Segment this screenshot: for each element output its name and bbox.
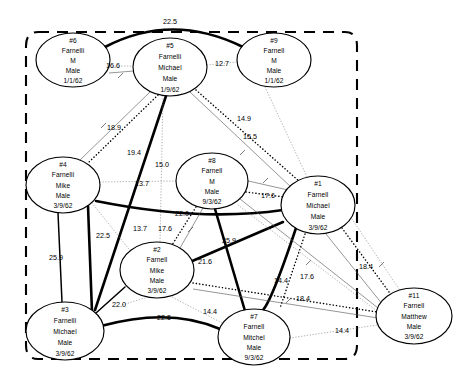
node-7-surname: Farnell [244,323,265,330]
node-3-id: #3 [61,306,69,313]
node-7-dob: 9/3/62 [245,354,264,361]
edge-label-1-11b: 18.4 [359,262,373,271]
node-5-id: #5 [166,42,174,49]
edge-label-4-8: 13.7 [135,179,149,188]
edge-4-2 [92,203,132,253]
edge-label-5-1: 15.5 [243,132,257,141]
node-11-surname: Farnell [404,302,425,309]
edge-5-2 [160,96,163,243]
node-9-surname: Farnell [264,47,285,54]
nodes-layer: #6 Farnelli M Male 1/1/62 #5 Farnelli Mi… [26,33,452,365]
edge-label-8-1: 17.6 [261,191,275,200]
node-4-dob: 3/9/62 [54,202,73,209]
edge-8-1 [244,180,288,190]
node-6[interactable]: #6 Farnelli M Male 1/1/62 [36,33,110,87]
edge-label-4-1: 22.0 [175,209,189,218]
edge-8-1-tick [263,178,268,183]
node-2-sex: Male [150,277,165,284]
node-1[interactable]: #1 Farnell Michael Male 3/9/62 [281,176,355,234]
node-5[interactable]: #5 Farnelli Michael Male 1/9/62 [133,38,207,96]
node-2-surname: Farnell [147,256,168,263]
record-linkage-graph: #6 Farnelli M Male 1/1/62 #5 Farnelli Mi… [0,0,468,386]
node-1-given: Michael [306,202,330,209]
node-1-sex: Male [311,213,326,220]
edge-label-2-3: 22.0 [112,300,126,309]
node-11-given: Matthew [401,313,427,320]
node-1-dob: 3/9/62 [309,224,328,231]
node-8-id: #8 [208,157,216,164]
node-9-given: M [271,57,277,64]
node-3[interactable]: #3 Farnelli Michael Male 3/9/62 [26,302,104,360]
node-7-id: #7 [250,313,258,320]
edge-1-7-tick [306,260,311,265]
edge-label-8-7: 21.6 [198,257,212,266]
edge-label-7-11: 14.4 [335,326,349,335]
node-8[interactable]: #8 Farnell M Male 9/3/62 [176,153,248,209]
edge-label-4-3: 25.9 [49,253,63,262]
edge-label-5-2: 15.0 [155,160,169,169]
node-11-sex: Male [407,323,422,330]
edge-label-1-7: 14.4 [274,276,288,285]
node-2[interactable]: #2 Farnell Mike Male 3/9/62 [120,242,194,298]
edge-7-11 [290,325,377,338]
edge-6-5 [109,71,134,73]
edge-1-11 [326,234,383,305]
edge-2-11-dotted [193,283,377,312]
edge-2-11-tick [286,298,291,303]
edge-label-2-7: 14.4 [203,307,217,316]
node-4-given: Mike [56,182,71,189]
node-11-id: #11 [409,292,420,299]
node-4-id: #4 [59,161,67,168]
node-7-given: Mitchel [243,334,265,341]
node-3-dob: 3/9/62 [56,350,75,357]
node-3-sex: Male [58,339,73,346]
node-3-given: Michael [53,328,77,335]
node-2-id: #2 [153,246,161,253]
node-9-sex: Male [267,67,282,74]
node-2-given: Mike [150,267,165,274]
node-1-surname: Farnell [308,191,329,198]
node-6-id: #6 [69,37,77,44]
edge-5-4-tick [101,123,106,128]
edge-label-6-9: 22.5 [163,17,177,26]
edge-label-1-11: 17.6 [300,272,314,281]
node-8-surname: Farnell [202,167,223,174]
edge-label-4-3b: 22.5 [96,231,110,240]
edge-label-4-2: 13.7 [133,224,147,233]
edge-label-5-4: 18.9 [107,123,121,132]
edge-4-3b [88,206,92,312]
node-5-surname: Farnelli [159,53,182,60]
node-9-dob: 1/1/62 [265,77,284,84]
node-2-dob: 3/9/62 [148,287,167,294]
edge-label-8-2: 17.6 [158,224,172,233]
edge-9-1 [265,87,307,177]
edge-label-2-11: 18.4 [296,294,310,303]
node-4-surname: Farnelli [52,171,75,178]
node-9-id: #9 [270,37,278,44]
edge-8-2-tick [188,227,193,232]
edge-1-11-fine [352,219,399,289]
node-5-given: Michael [158,64,182,71]
node-11-dob: 3/9/62 [405,333,424,340]
edge-5-1-tick [240,150,245,155]
node-11[interactable]: #11 Farnell Matthew Male 3/9/62 [376,288,452,344]
node-7[interactable]: #7 Farnell Mitchel Male 9/3/62 [218,309,290,365]
node-5-dob: 1/9/62 [161,86,180,93]
edge-6-5-tick [118,73,123,78]
edge-label-9-1: 14.9 [237,114,251,123]
node-6-surname: Farnelli [62,47,85,54]
node-7-sex: Male [247,344,262,351]
node-9[interactable]: #9 Farnell M Male 1/1/62 [237,33,311,87]
edge-8-7 [215,209,245,311]
edge-1-7 [263,228,296,310]
node-6-dob: 1/1/62 [64,77,83,84]
node-6-sex: Male [66,67,81,74]
node-8-sex: Male [205,188,220,195]
node-8-dob: 9/3/62 [203,198,222,205]
node-5-sex: Male [163,75,178,82]
node-4[interactable]: #4 Farnelli Mike Male 3/9/62 [26,157,100,213]
edge-label-1-2: 25.9 [222,236,236,245]
edge-label-6-5: 16.6 [106,61,120,70]
node-4-sex: Male [56,192,71,199]
edge-label-5-3: 19.4 [127,148,141,157]
